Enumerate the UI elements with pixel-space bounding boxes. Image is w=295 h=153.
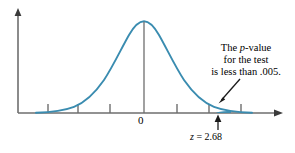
normal-curve-figure: The p-value for the test is less than .0…: [0, 0, 295, 153]
z-value-label: z = 2.68: [190, 131, 222, 142]
pvalue-line3: is less than .005.: [211, 66, 281, 77]
z-value-pointer-arrow: [215, 115, 222, 131]
z-value-rest: = 2.68: [194, 131, 222, 142]
origin-axis-label: 0: [138, 114, 144, 126]
y-axis-arrowhead: [15, 8, 22, 16]
pvalue-annotation-text: The p-value for the test is less than .0…: [199, 42, 293, 79]
pvalue-leader-arrow: [219, 79, 241, 104]
pvalue-line1: The p-value: [221, 42, 271, 53]
pvalue-line1-suffix: -value: [245, 42, 271, 53]
y-axis: [15, 8, 22, 113]
pvalue-line1-prefix: The: [221, 42, 240, 53]
pvalue-line2: for the test: [224, 54, 269, 65]
x-axis-arrowhead: [274, 109, 283, 116]
